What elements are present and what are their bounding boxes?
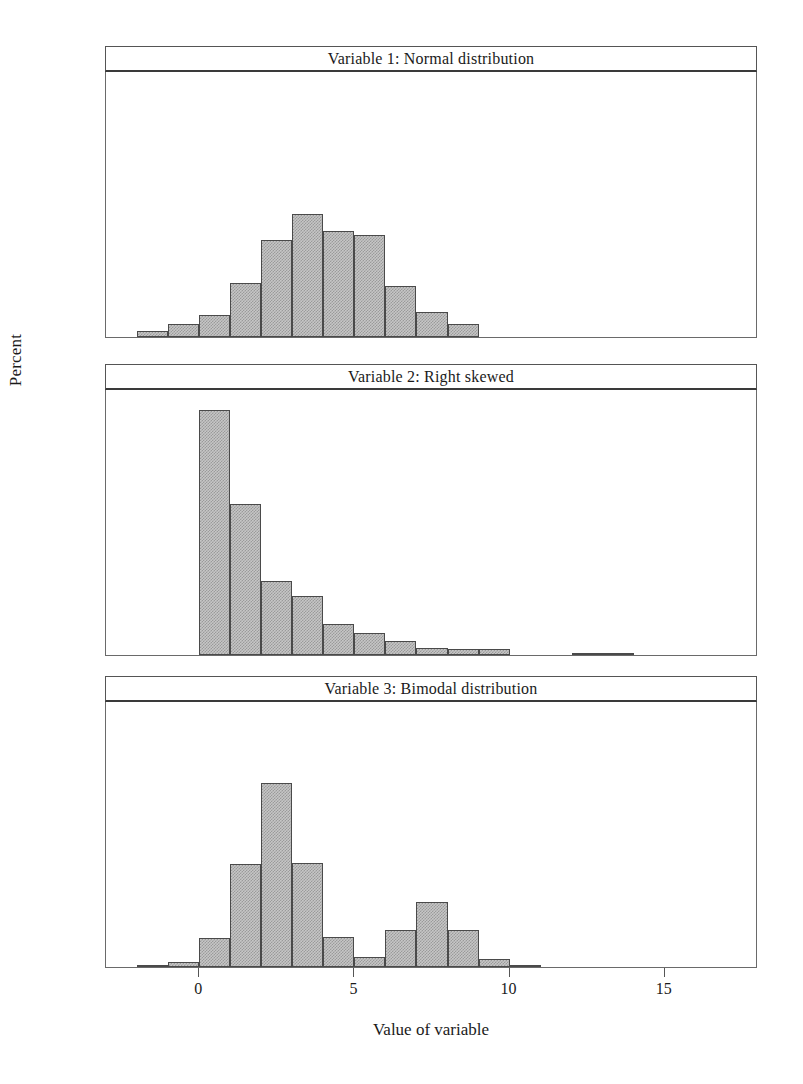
histogram-bar <box>168 962 199 967</box>
histogram-bar <box>416 902 447 967</box>
panel-title-3: Variable 3: Bimodal distribution <box>324 680 537 698</box>
y-tick-label: 0 <box>105 647 106 656</box>
histogram-bar <box>354 633 385 655</box>
histogram-bar <box>292 596 323 655</box>
x-axis: 051015 <box>105 968 757 1028</box>
histogram-bar <box>292 214 323 337</box>
y-tick-mark <box>105 217 106 218</box>
bars-container-2 <box>106 390 756 655</box>
bars-container-1 <box>106 72 756 337</box>
x-axis-label: Value of variable <box>105 1020 757 1040</box>
histogram-bar <box>448 324 479 337</box>
histogram-bar <box>230 864 261 967</box>
y-tick-mark <box>105 908 106 909</box>
y-tick-mark <box>105 787 106 788</box>
histogram-bar <box>323 937 354 967</box>
histogram-bar <box>603 653 634 655</box>
histogram-bar <box>137 965 168 967</box>
x-tick-label: 10 <box>501 980 517 998</box>
histogram-bar <box>199 938 230 967</box>
histogram-bar <box>479 649 510 655</box>
histogram-bar <box>199 315 230 337</box>
histogram-bar <box>261 240 292 337</box>
histogram-bar <box>261 783 292 967</box>
histogram-bar <box>137 331 168 337</box>
x-tick-mark <box>509 968 510 977</box>
x-tick-mark <box>353 968 354 977</box>
x-tick-label: 5 <box>349 980 357 998</box>
histogram-panel-1: Variable 1: Normal distribution 01020304… <box>105 46 757 338</box>
panel-title-1: Variable 1: Normal distribution <box>328 50 535 68</box>
plot-area-2: 010203040 <box>105 390 757 656</box>
histogram-bar <box>416 648 447 655</box>
y-tick-mark <box>105 157 106 158</box>
histogram-bar <box>510 965 541 967</box>
histogram-bar <box>261 581 292 655</box>
histogram-bar <box>448 649 479 655</box>
histogram-bar <box>230 504 261 655</box>
histogram-bar <box>479 959 510 967</box>
histogram-bar <box>323 231 354 337</box>
histogram-panel-3: Variable 3: Bimodal distribution 0102030… <box>105 676 757 968</box>
x-tick-label: 15 <box>656 980 672 998</box>
y-tick-mark <box>105 96 106 97</box>
y-tick-mark <box>105 475 106 476</box>
y-tick-label: 0 <box>105 959 106 968</box>
plot-area-3: 010203040 <box>105 702 757 968</box>
histogram-bar <box>385 286 416 337</box>
x-tick-mark <box>664 968 665 977</box>
histogram-bar <box>168 324 199 337</box>
histogram-bar <box>323 624 354 655</box>
histogram-bar <box>230 283 261 337</box>
y-axis-label: Percent <box>6 280 26 440</box>
histogram-bar <box>385 641 416 655</box>
histogram-bar <box>572 653 603 655</box>
plot-area-1: 010203040 <box>105 72 757 338</box>
histogram-bar <box>448 930 479 967</box>
histogram-bar <box>416 312 447 337</box>
y-tick-mark <box>105 596 106 597</box>
y-tick-mark <box>105 726 106 727</box>
x-tick-label: 0 <box>194 980 202 998</box>
y-tick-mark <box>105 535 106 536</box>
panel-title-strip-1: Variable 1: Normal distribution <box>105 46 757 72</box>
panel-title-strip-2: Variable 2: Right skewed <box>105 364 757 390</box>
panel-title-2: Variable 2: Right skewed <box>348 368 514 386</box>
y-tick-mark <box>105 278 106 279</box>
histogram-bar <box>354 235 385 337</box>
y-tick-mark <box>105 414 106 415</box>
histogram-bar <box>385 930 416 967</box>
y-tick-label: 0 <box>105 329 106 338</box>
histogram-panel-2: Variable 2: Right skewed 010203040 <box>105 364 757 656</box>
histogram-bar <box>354 957 385 967</box>
bars-container-3 <box>106 702 756 967</box>
figure-canvas: Percent Variable 1: Normal distribution … <box>0 0 803 1084</box>
panel-title-strip-3: Variable 3: Bimodal distribution <box>105 676 757 702</box>
y-tick-mark <box>105 847 106 848</box>
histogram-bar <box>199 410 230 655</box>
histogram-bar <box>292 863 323 967</box>
x-tick-mark <box>198 968 199 977</box>
